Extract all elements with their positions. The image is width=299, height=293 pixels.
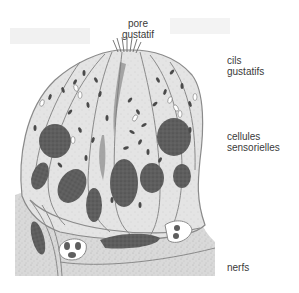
- label-cils-line1: cils: [227, 55, 264, 66]
- label-cellules-line1: cellules: [227, 131, 280, 142]
- label-nerfs-line1: nerfs: [227, 262, 249, 273]
- label-cellules-line2: sensorielles: [227, 142, 280, 153]
- label-cellules-sensorielles: cellules sensorielles: [227, 131, 280, 153]
- epithelium-band: [10, 28, 90, 44]
- label-pore-gustatif: pore gustatif: [115, 18, 161, 40]
- label-nerfs: nerfs: [227, 262, 249, 273]
- label-pore-line1: pore: [115, 18, 161, 29]
- label-cils-line2: gustatifs: [227, 66, 264, 77]
- label-cils-gustatifs: cils gustatifs: [227, 55, 264, 77]
- label-pore-line2: gustatif: [115, 29, 161, 40]
